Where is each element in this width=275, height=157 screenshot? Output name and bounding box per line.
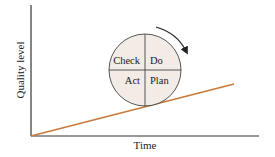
y-axis-label: Quality level bbox=[14, 41, 26, 98]
quadrant-act: Act bbox=[125, 75, 140, 86]
quadrant-plan: Plan bbox=[150, 75, 169, 86]
quadrant-do: Do bbox=[150, 55, 163, 66]
pdca-wheel: Check Do Act Plan bbox=[109, 34, 181, 106]
x-axis-label: Time bbox=[134, 139, 157, 151]
quadrant-check: Check bbox=[113, 55, 141, 66]
pdca-quality-diagram: Check Do Act Plan Quality level Time bbox=[0, 0, 275, 157]
